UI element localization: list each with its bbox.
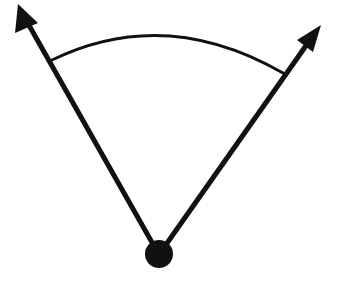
angle-diagram [0, 0, 339, 296]
vertex-point [145, 240, 173, 268]
